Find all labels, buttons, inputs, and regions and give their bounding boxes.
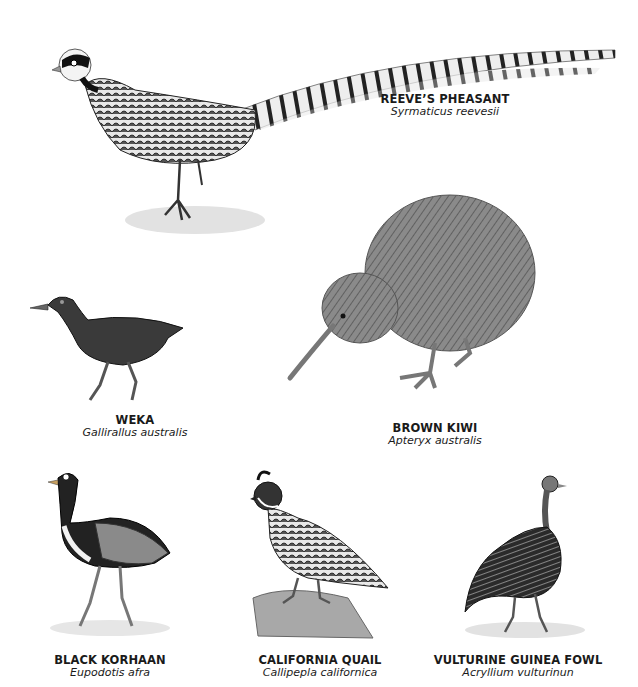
scientific-name: Acryllium vulturinun (428, 667, 608, 680)
caption-brown-kiwi: BROWN KIWI Apteryx australis (360, 422, 510, 448)
scientific-name: Callipepla californica (240, 667, 400, 680)
caption-vulturine-guinea-fowl: VULTURINE GUINEA FOWL Acryllium vulturin… (428, 654, 608, 680)
scientific-name: Eupodotis afra (45, 667, 175, 680)
scientific-name: Gallirallus australis (60, 427, 210, 440)
caption-reeves-pheasant: REEVE’S PHEASANT Syrmaticus reevesii (370, 93, 520, 119)
weka-illustration (28, 290, 188, 405)
black-korhaan-illustration (40, 468, 175, 638)
brown-kiwi-illustration (285, 188, 540, 403)
caption-weka: WEKA Gallirallus australis (60, 414, 210, 440)
scientific-name: Apteryx australis (360, 435, 510, 448)
vulturine-guinea-fowl-illustration (455, 472, 585, 640)
caption-black-korhaan: BLACK KORHAAN Eupodotis afra (45, 654, 175, 680)
caption-california-quail: CALIFORNIA QUAIL Callipepla californica (240, 654, 400, 680)
scientific-name: Syrmaticus reevesii (370, 106, 520, 119)
california-quail-illustration (248, 468, 396, 640)
